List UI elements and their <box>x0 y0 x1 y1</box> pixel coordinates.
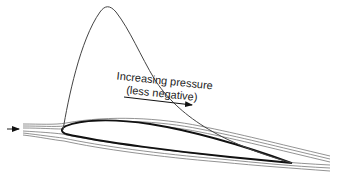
airfoil-pressure-diagram: Increasing pressure (less negative) <box>0 0 337 175</box>
increasing-pressure-annotation: Increasing pressure (less negative) <box>115 69 214 104</box>
